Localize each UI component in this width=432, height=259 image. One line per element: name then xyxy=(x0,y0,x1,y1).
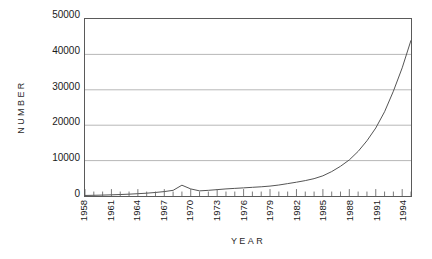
y-axis-tick-label: 50000 xyxy=(26,10,80,20)
y-axis-tick-label: 10000 xyxy=(26,153,80,163)
y-axis-tick-label: 40000 xyxy=(26,46,80,56)
chart-figure: Number 50000400003000020000100000 195819… xyxy=(0,0,432,259)
data-series-line xyxy=(85,40,411,195)
y-axis-tick-label: 20000 xyxy=(26,117,80,127)
x-axis-tick-label: 1976 xyxy=(239,200,249,234)
gridlines xyxy=(85,54,411,160)
x-axis-tick-label: 1973 xyxy=(212,200,222,234)
x-axis-tick-label: 1979 xyxy=(265,200,275,234)
x-axis-tick-label: 1964 xyxy=(132,200,142,234)
x-axis-tick-label: 1967 xyxy=(159,200,169,234)
x-axis-ticks xyxy=(85,189,411,196)
x-axis-tick-label: 1958 xyxy=(79,200,89,234)
x-axis-tick-label: 1982 xyxy=(292,200,302,234)
y-axis-tick-labels: 50000400003000020000100000 xyxy=(26,14,80,197)
x-axis-tick-label: 1991 xyxy=(372,200,382,234)
y-axis-tick-label: 0 xyxy=(26,189,80,199)
plot-svg xyxy=(85,19,411,196)
x-axis-tick-label: 1961 xyxy=(106,200,116,234)
x-axis-title: Year xyxy=(84,236,412,246)
y-axis-tick-label: 30000 xyxy=(26,82,80,92)
x-axis-tick-label: 1994 xyxy=(398,200,408,234)
x-axis-tick-labels: 1958196119641967197019731976197919821985… xyxy=(84,200,412,234)
x-axis-tick-label: 1985 xyxy=(318,200,328,234)
x-axis-tick-label: 1970 xyxy=(185,200,195,234)
x-axis-tick-label: 1988 xyxy=(345,200,355,234)
y-axis-title-text: Number xyxy=(16,80,26,133)
plot-area xyxy=(84,18,412,197)
